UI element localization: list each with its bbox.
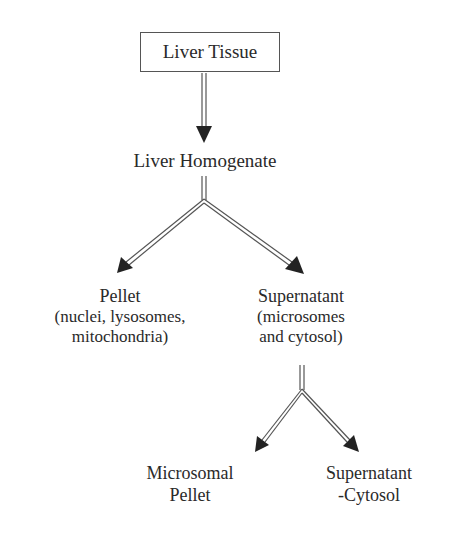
- node-pellet: Pellet (nuclei, lysosomes, mitochondria): [30, 286, 210, 347]
- node-detail-1: (microsomes: [226, 307, 376, 327]
- arrow-supernatant-split: [255, 365, 359, 452]
- node-label-1: Supernatant: [304, 462, 434, 484]
- node-detail-2: mitochondria): [30, 327, 210, 347]
- node-supernatant: Supernatant (microsomes and cytosol): [226, 286, 376, 347]
- node-supernatant-cytosol: Supernatant -Cytosol: [304, 462, 434, 506]
- node-label: Liver Tissue: [163, 41, 258, 63]
- node-label-2: -Cytosol: [304, 484, 434, 506]
- node-label-1: Microsomal: [120, 462, 260, 484]
- node-microsomal-pellet: Microsomal Pellet: [120, 462, 260, 506]
- arrow-tissue-to-homogenate: [196, 73, 212, 143]
- arrows-layer: [0, 0, 463, 535]
- node-liver-homogenate: Liver Homogenate: [90, 150, 320, 171]
- node-detail-1: (nuclei, lysosomes,: [30, 307, 210, 327]
- node-label: Pellet: [100, 286, 141, 306]
- node-label: Liver Homogenate: [134, 150, 277, 171]
- node-label: Supernatant: [258, 286, 344, 306]
- node-liver-tissue: Liver Tissue: [140, 32, 280, 72]
- node-detail-2: and cytosol): [226, 327, 376, 347]
- arrow-homogenate-split: [117, 176, 304, 274]
- node-label-2: Pellet: [120, 484, 260, 506]
